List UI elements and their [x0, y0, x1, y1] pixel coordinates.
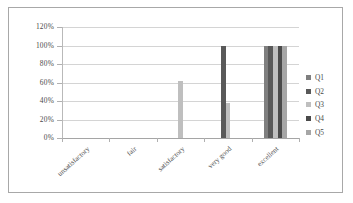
legend-label: Q3: [315, 100, 324, 109]
x-axis-label-excellent: excellent: [231, 145, 281, 191]
legend-item-q3[interactable]: Q3: [306, 98, 324, 112]
x-axis-label-unsatisfactory: unsatisfactory: [41, 145, 91, 191]
y-axis-tick-label: 20%: [9, 115, 54, 124]
bar-q5-excellent: [282, 46, 287, 139]
legend-item-q2[interactable]: Q2: [306, 85, 324, 99]
y-axis-tick-label: 40%: [9, 96, 54, 105]
legend-label: Q1: [315, 73, 324, 82]
y-axis-tick-label: 80%: [9, 59, 54, 68]
x-axis-tick-mark: [109, 138, 110, 142]
y-axis-tick-label: 100%: [9, 41, 54, 50]
x-axis-label-satisfactory: satisfactory: [136, 145, 186, 191]
legend-label: Q4: [315, 114, 324, 123]
legend-swatch-icon: [306, 130, 311, 135]
legend-label: Q5: [315, 128, 324, 137]
y-axis-tick-label: 60%: [9, 78, 54, 87]
legend-label: Q2: [315, 87, 324, 96]
legend-swatch-icon: [306, 102, 311, 107]
legend-item-q1[interactable]: Q1: [306, 71, 324, 85]
legend-item-q4[interactable]: Q4: [306, 112, 324, 126]
x-axis-label-fair: fair: [89, 145, 139, 191]
x-axis-line: [62, 138, 300, 139]
bar-chart: 0%20%40%60%80%100%120% unsatisfactoryfai…: [9, 8, 344, 194]
bar-q3-satisfactory: [178, 81, 183, 138]
y-axis-tick-label: 0%: [9, 133, 54, 142]
y-axis-tick-label: 120%: [9, 22, 54, 31]
x-axis-tick-mark: [299, 138, 300, 142]
legend-swatch-icon: [306, 75, 311, 80]
x-axis-tick-mark: [157, 138, 158, 142]
x-axis-tick-mark: [204, 138, 205, 142]
x-axis-label-very-good: very good: [183, 145, 233, 191]
chart-frame: 0%20%40%60%80%100%120% unsatisfactoryfai…: [8, 7, 343, 193]
legend-item-q5[interactable]: Q5: [306, 125, 324, 139]
legend-swatch-icon: [306, 89, 311, 94]
x-axis-tick-mark: [62, 138, 63, 142]
bar-q3-very-good: [226, 103, 231, 138]
plot-area: [62, 27, 299, 138]
chart-legend: Q1Q2Q3Q4Q5: [306, 71, 324, 139]
legend-swatch-icon: [306, 116, 311, 121]
x-axis-tick-mark: [252, 138, 253, 142]
